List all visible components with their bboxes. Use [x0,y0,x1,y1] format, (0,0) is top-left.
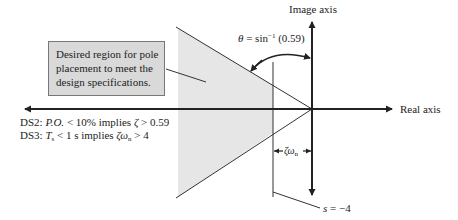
theta-sin: = sin [243,32,268,44]
callout-line-3: design specifications. [56,75,164,89]
zeta-omega-sub: n [295,150,299,158]
desired-region-callout: Desired region for pole placement to mee… [48,41,165,96]
s-value: = −4 [327,202,350,214]
zeta-omega-label: ζωn [284,144,298,161]
callout-line-2: placement to meet the [56,61,164,75]
s-plane-diagram [0,0,458,220]
ds3-condition: < 1 s implies [54,129,116,141]
theta-argument: (0.59) [275,32,304,44]
theta-label: θ = sin−1 (0.59) [238,30,305,45]
desired-region [178,28,273,197]
spec-ds2: DS2: P.O. < 10% implies ζ > 0.59 [20,116,169,129]
ds2-result: > 0.59 [138,116,169,128]
ds2-condition: < 10% implies [64,116,134,128]
image-axis-label: Image axis [289,3,337,16]
s-boundary-label: s = −4 [323,202,351,215]
real-axis-label: Real axis [400,103,441,116]
theta-arc [252,54,310,70]
theta-arc-start-arrow [251,60,262,71]
ds3-prefix: DS3: [20,129,45,141]
ds3-zeta: ζω [116,129,128,141]
callout-line-1: Desired region for pole [56,47,164,61]
ds3-result: > 4 [131,129,148,141]
zeta-omega-text: ζω [284,145,295,156]
spec-ds3: DS3: Ts < 1 s implies ζωn > 4 [20,129,149,146]
ds2-prefix: DS2: [20,116,45,128]
ds2-var: P.O. [45,116,64,128]
